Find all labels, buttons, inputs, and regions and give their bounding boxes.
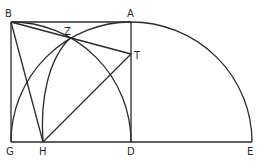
label-Z: Z — [64, 26, 71, 37]
label-H: H — [39, 146, 47, 157]
curve-H-Z — [42, 38, 70, 142]
arc-center-G — [11, 22, 131, 142]
segment-HT — [43, 54, 131, 142]
segment-BH — [11, 22, 43, 142]
geometric-diagram: B A Z T G H D E — [0, 0, 257, 167]
label-D: D — [127, 146, 135, 157]
label-E: E — [247, 146, 253, 157]
label-A: A — [127, 8, 134, 19]
label-T: T — [133, 50, 141, 61]
segment-BT — [11, 22, 131, 54]
label-G: G — [6, 146, 14, 157]
label-B: B — [5, 8, 12, 19]
